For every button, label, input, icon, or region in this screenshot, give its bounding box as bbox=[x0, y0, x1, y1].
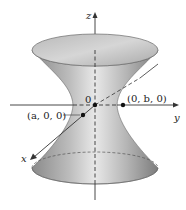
point-b-label: (0, b, 0) bbox=[127, 93, 167, 104]
origin-point bbox=[93, 103, 97, 107]
origin-label: 0 bbox=[85, 94, 91, 105]
hyperboloid-diagram: z y x 0 (a, 0, 0) (0, b, 0) bbox=[0, 0, 186, 210]
x-axis-arrow-icon bbox=[30, 154, 37, 161]
y-axis-arrow-icon bbox=[173, 103, 179, 108]
point-a-label: (a, 0, 0) bbox=[27, 110, 66, 121]
z-axis-label: z bbox=[85, 10, 92, 21]
z-axis-arrow-icon bbox=[93, 12, 98, 18]
ruling-line bbox=[140, 64, 158, 78]
point-b bbox=[121, 103, 125, 107]
x-axis-label: x bbox=[21, 153, 27, 164]
y-axis-label: y bbox=[173, 112, 180, 123]
point-a bbox=[81, 113, 85, 117]
